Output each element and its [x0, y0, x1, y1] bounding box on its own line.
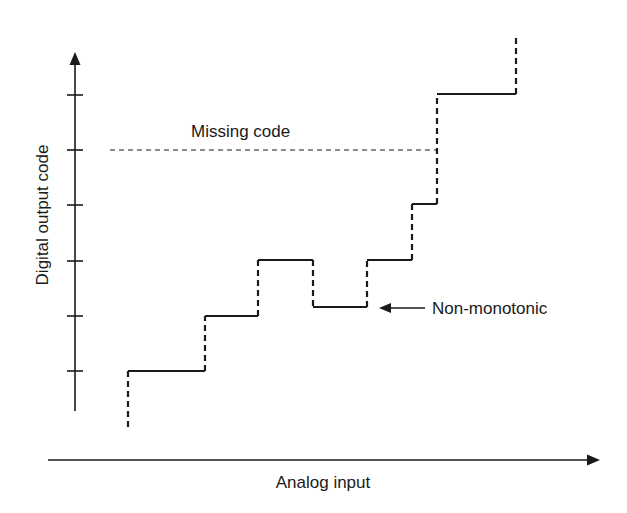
- step-treads: [128, 94, 516, 371]
- y-axis-arrow-icon: [70, 52, 81, 65]
- transfer-diagram: Analog input Digital output code Missing…: [0, 0, 627, 513]
- left-arrow-icon: [379, 303, 391, 313]
- y-axis: [67, 52, 83, 411]
- missing-code-label: Missing code: [191, 122, 290, 141]
- x-axis-arrow-icon: [587, 455, 600, 466]
- y-axis-label: Digital output code: [33, 145, 52, 286]
- non-monotonic-annotation: Non-monotonic: [379, 299, 548, 318]
- x-axis: [48, 455, 600, 466]
- non-monotonic-label: Non-monotonic: [432, 299, 548, 318]
- x-axis-label: Analog input: [276, 473, 371, 492]
- step-risers: [128, 38, 516, 427]
